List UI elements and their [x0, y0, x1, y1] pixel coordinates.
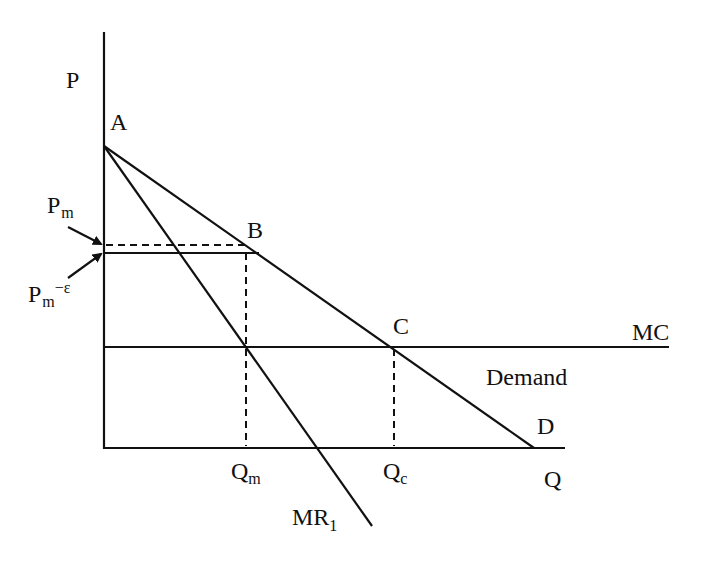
monopoly-price-label: Pm	[47, 192, 74, 221]
limit-price-arrow-icon	[68, 254, 101, 278]
limit-price-label: Pm−ε	[28, 279, 71, 310]
point-c-label: C	[393, 313, 409, 339]
x-axis-label: Q	[544, 466, 561, 492]
y-axis-label: P	[66, 67, 79, 93]
monopoly-pricing-diagram: P Q A B C D MC Demand MR1 Pm Pm−ε Qm Qc	[0, 0, 701, 567]
mc-label: MC	[632, 319, 669, 345]
point-b-label: B	[247, 217, 263, 243]
monopoly-quantity-label: Qm	[231, 458, 261, 487]
monopoly-price-arrow-icon	[68, 227, 101, 244]
mr-label: MR1	[292, 504, 337, 534]
demand-label: Demand	[486, 364, 567, 390]
competitive-quantity-label: Qc	[383, 458, 407, 487]
demand-curve	[104, 146, 534, 448]
point-a-label: A	[110, 109, 128, 135]
point-d-label: D	[537, 413, 554, 439]
